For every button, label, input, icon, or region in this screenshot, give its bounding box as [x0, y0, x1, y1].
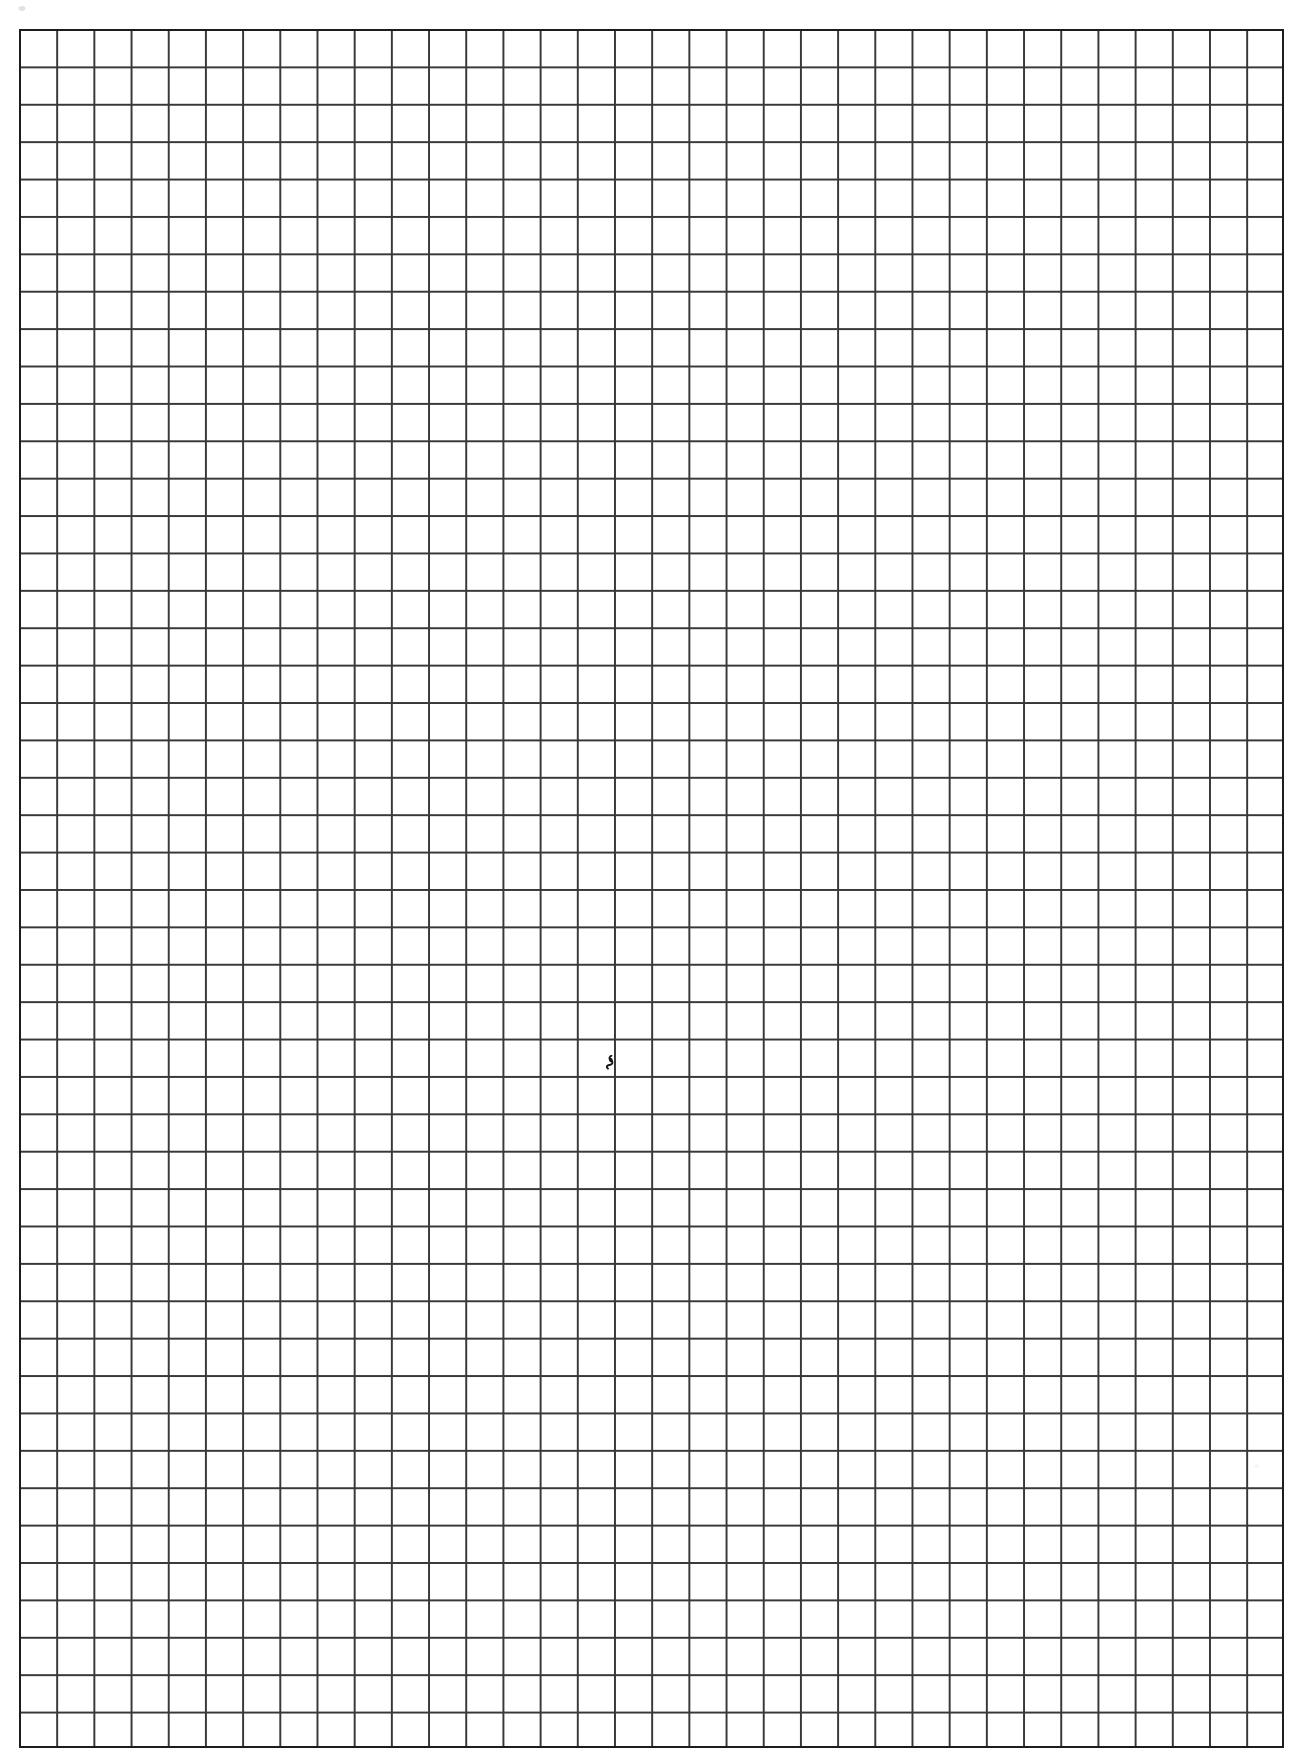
grid-lines — [19, 29, 1284, 1748]
corner-speck — [17, 4, 27, 13]
graph-paper-grid — [19, 29, 1284, 1748]
scanned-page: Blank grid paper scan — [0, 0, 1300, 1753]
